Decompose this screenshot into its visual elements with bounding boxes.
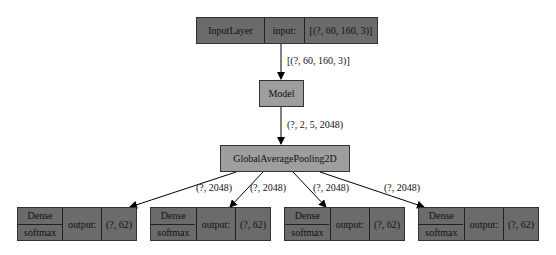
model-graph: InputLayer input: [(?, 60, 160, 3)] [(?,… (0, 0, 556, 255)
global-average-pooling-node: GlobalAveragePooling2D (220, 145, 350, 172)
dense-activation: softmax (285, 224, 329, 241)
dense-node-3: Densesoftmax output: (?, 62) (284, 207, 405, 241)
dense-activation: softmax (18, 224, 62, 241)
dense-activation: softmax (419, 224, 463, 241)
input-layer-port: input: (264, 18, 304, 43)
input-layer-node: InputLayer input: [(?, 60, 160, 3)] (196, 17, 378, 44)
dense-node-1: Densesoftmax output: (?, 62) (17, 207, 137, 241)
edge-label-dense-3: (?, 2048) (313, 182, 349, 193)
edge-label-model-gap: (?, 2, 5, 2048) (287, 119, 343, 130)
model-node: Model (259, 80, 304, 107)
dense-port: output: (330, 208, 369, 240)
dense-type: Dense (22, 208, 59, 224)
dense-node-4: Densesoftmax output: (?, 62) (418, 207, 539, 241)
dense-activation: softmax (151, 224, 195, 241)
dense-port: output: (464, 208, 503, 240)
dense-type: Dense (155, 208, 192, 224)
input-layer-shape: [(?, 60, 160, 3)] (304, 18, 377, 43)
gap-label: GlobalAveragePooling2D (221, 146, 349, 171)
input-layer-type: InputLayer (197, 18, 264, 43)
dense-port: output: (62, 208, 101, 240)
model-label: Model (260, 81, 303, 106)
dense-shape: (?, 62) (369, 208, 404, 240)
edge-label-dense-1: (?, 2048) (196, 182, 232, 193)
dense-node-2: Densesoftmax output: (?, 62) (150, 207, 271, 241)
edge-label-input-model: [(?, 60, 160, 3)] (287, 55, 350, 66)
edge-label-dense-4: (?, 2048) (384, 182, 420, 193)
dense-type: Dense (423, 208, 460, 224)
dense-port: output: (196, 208, 235, 240)
dense-type: Dense (289, 208, 326, 224)
dense-shape: (?, 62) (503, 208, 538, 240)
edge-label-dense-2: (?, 2048) (250, 182, 286, 193)
dense-shape: (?, 62) (101, 208, 136, 240)
dense-shape: (?, 62) (235, 208, 270, 240)
